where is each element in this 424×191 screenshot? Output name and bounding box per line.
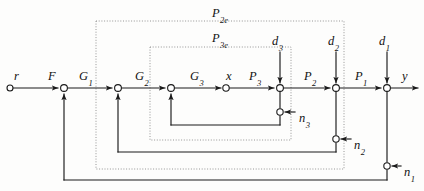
label-block-F: F (48, 70, 56, 85)
summing-junction-d1 (384, 85, 391, 92)
summing-junction-d2 (333, 85, 340, 92)
label-signal-x: x (226, 70, 232, 83)
label-disturbance-d3: d3 (272, 35, 283, 50)
label-noise-n3: n3 (299, 112, 310, 127)
label-block-P2: P2 (304, 70, 316, 85)
summing-junction-1 (61, 85, 68, 92)
label-signal-r: r (14, 70, 19, 83)
label-noise-n2: n2 (354, 139, 365, 154)
noise-node-n1 (384, 163, 390, 169)
summing-junction-d3 (277, 85, 284, 92)
label-P3e: P3e (212, 32, 228, 47)
summing-junction-3 (168, 85, 175, 92)
terminal-input-r (7, 85, 13, 91)
block-diagram-figure: P2e P3e r x y F G1 G2 G3 P3 P2 P1 d3 d2 … (0, 0, 424, 191)
label-block-P1: P1 (355, 70, 367, 85)
label-block-G1: G1 (79, 70, 92, 85)
label-block-P3: P3 (249, 70, 261, 85)
summing-junction-2 (115, 85, 122, 92)
label-signal-y: y (402, 70, 408, 83)
label-disturbance-d2: d2 (328, 35, 339, 50)
label-P2e: P2e (212, 7, 228, 22)
label-block-G3: G3 (190, 70, 203, 85)
noise-node-n3 (277, 109, 283, 115)
label-disturbance-d1: d1 (379, 35, 390, 50)
noise-node-n2 (333, 136, 339, 142)
label-noise-n1: n1 (404, 166, 415, 181)
diagram-canvas (0, 0, 424, 191)
pickoff-point-x (223, 85, 229, 91)
label-block-G2: G2 (135, 70, 148, 85)
